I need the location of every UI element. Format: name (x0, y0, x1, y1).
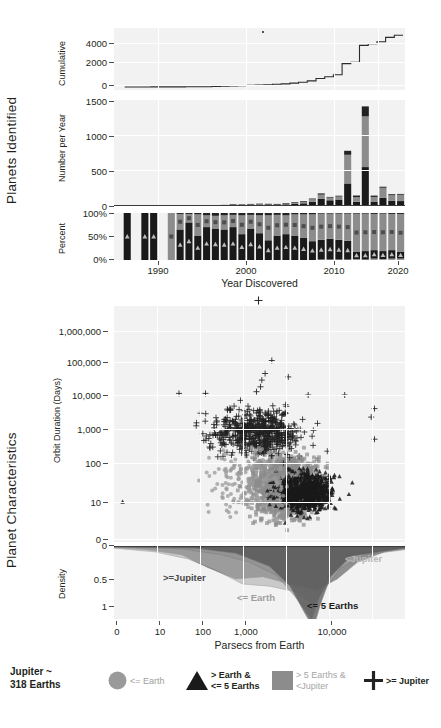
legend-item-gt-earth-le-5[interactable]: > Earth & <= 5 Earths (186, 666, 272, 694)
ytick-orbit-100000: 100,000 (40, 357, 101, 368)
ytick-percent-100: 100% (60, 208, 107, 219)
ytick-per-year-1000: 1000 (60, 131, 107, 142)
ytick-cumulative-0: 0 (60, 80, 107, 91)
legend-note-line2: 318 Earths (10, 678, 61, 691)
density-annotation-ge-jupiter: >=Jupiter (163, 572, 206, 583)
ytick-per-year-500: 500 (60, 166, 107, 177)
section-title-planet-characteristics: Planet Characteristics (4, 395, 24, 605)
triangle-icon (186, 671, 208, 690)
legend-note-line1: Jupiter ~ (10, 665, 61, 678)
xtick-year-2020: 2020 (378, 265, 418, 276)
xtick-parsec-100: 100 (183, 626, 223, 637)
density-annotation-le-earth: <= Earth (237, 592, 275, 603)
legend-item-le-earth[interactable]: <= Earth (108, 668, 186, 694)
legend-label-gt-earth-line1: > Earth & (211, 670, 251, 680)
axis-label-year-discovered: Year Discovered (114, 277, 405, 289)
plus-icon (363, 670, 384, 691)
legend-note: Jupiter ~ 318 Earths (10, 665, 61, 691)
legend-label-le-earth: <= Earth (130, 676, 165, 686)
circle-icon (108, 671, 127, 690)
xtick-parsec-10: 10 (140, 626, 180, 637)
chart-orbit-duration-scatter (114, 305, 405, 542)
legend-label-gt-earth-line2: <= 5 Earths (211, 681, 260, 691)
xtick-parsec-1000: 1,000 (226, 626, 266, 637)
ytick-cumulative-4000: 4000 (60, 38, 107, 49)
xtick-parsec-0: 0 (97, 626, 137, 637)
chart-discoveries-per-year (114, 100, 405, 206)
stray-dot (262, 31, 264, 33)
chart-discoveries-percent (114, 213, 405, 260)
xtick-parsec-10000: 10,000 (311, 626, 353, 637)
ytick-cumulative-2000: 2000 (60, 57, 107, 68)
ytick-per-year-1500: 1500 (60, 96, 107, 107)
xtick-year-2000: 2000 (226, 265, 266, 276)
ytick-orbit-1000000: 1,000,000 (40, 326, 101, 337)
scatter-outlier-point (254, 296, 263, 305)
ytick-orbit-10000: 10,000 (40, 390, 101, 401)
section-title-planets-identified: Planets Identified (4, 35, 24, 265)
xtick-year-2010: 2010 (314, 265, 354, 276)
chart-cumulative-discoveries (114, 28, 405, 90)
legend-item-gt5-lt-jupiter[interactable]: > 5 Earths & <Jupiter (272, 666, 360, 694)
legend-label-ge-jupiter: >= Jupiter (386, 676, 429, 686)
legend-item-ge-jupiter[interactable]: >= Jupiter (363, 668, 441, 694)
ytick-orbit-10: 10 (40, 497, 101, 508)
density-annotation-le-5-earths: <= 5 Earths (307, 600, 358, 611)
legend-label-gt5-line2: <Jupiter (296, 681, 328, 691)
square-icon (272, 671, 293, 690)
ytick-density-05: 0.5 (60, 574, 107, 585)
density-annotation-lt-jupiter: <Jupiter (345, 553, 382, 564)
ytick-orbit-100: 100 (40, 458, 101, 469)
ytick-density-1: 1 (60, 601, 107, 612)
ytick-orbit-1000: 1,000 (40, 424, 101, 435)
axis-title-number-per-year: Number per Year (57, 95, 69, 200)
ytick-density-0: 0 (60, 540, 107, 551)
xtick-year-1990: 1990 (138, 265, 178, 276)
legend-label-gt5-line1: > 5 Earths & (296, 670, 346, 680)
ytick-percent-50: 50% (60, 231, 107, 242)
ytick-percent-0: 0% (60, 254, 107, 265)
axis-label-parsecs-from-earth: Parsecs from Earth (114, 639, 405, 651)
